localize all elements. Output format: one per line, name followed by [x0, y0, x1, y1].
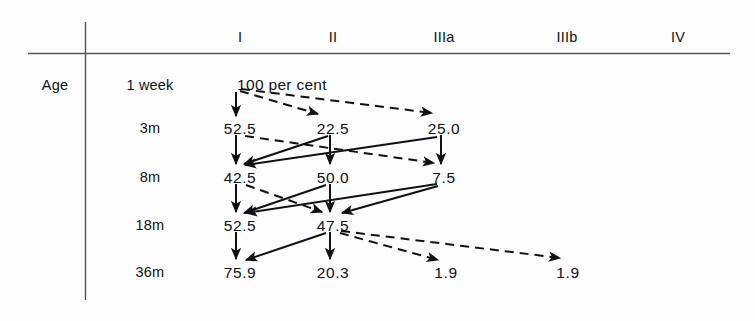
arrows-1week-to-3m — [236, 89, 432, 116]
arrow-dashed-I-to-IIIa — [245, 136, 434, 163]
cell-3m-I: 52.5 — [224, 121, 257, 137]
column-header-IV: IV — [671, 30, 685, 45]
cell-8m-II: 50.0 — [317, 170, 350, 186]
arrow-solid-II-to-I — [244, 185, 326, 213]
row-label-36m: 36m — [136, 265, 165, 280]
transition-arrow-layer — [0, 0, 755, 321]
arrow-solid-IIIa-to-II — [342, 186, 438, 213]
row-label-18m: 18m — [136, 218, 165, 233]
row-axis-title: Age — [42, 78, 68, 93]
cell-36m-IIIa: 1.9 — [434, 265, 457, 281]
arrow-solid-IIIa-to-I — [245, 137, 437, 165]
cell-3m-II: 22.5 — [317, 121, 350, 137]
cell-1week-I: 100 per cent — [237, 77, 327, 93]
arrows-18m-to-36m — [236, 231, 560, 260]
cell-36m-II: 20.3 — [317, 265, 350, 281]
arrows-8m-to-18m — [236, 184, 438, 213]
arrows-3m-to-8m — [236, 135, 441, 165]
row-label-3m: 3m — [140, 121, 161, 136]
cell-3m-IIIa: 25.0 — [428, 121, 461, 137]
arrow-solid-II-to-I — [246, 233, 326, 260]
cell-36m-I: 75.9 — [224, 265, 257, 281]
row-label-8m: 8m — [140, 170, 161, 185]
column-header-II: II — [329, 30, 337, 45]
arrow-dashed-II-to-IIIb — [341, 231, 560, 258]
column-header-I: I — [238, 30, 242, 45]
cell-18m-II: 47.5 — [317, 218, 350, 234]
cell-36m-IIIb: 1.9 — [556, 265, 579, 281]
figure-canvas: Age I II IIIa IIIb IV 1 week 3m 8m 18m 3… — [0, 0, 755, 321]
cell-18m-I: 52.5 — [224, 218, 257, 234]
column-header-IIIa: IIIa — [434, 30, 455, 45]
cell-8m-IIIa: 7.5 — [432, 170, 455, 186]
arrow-solid-IIIa-to-I — [246, 184, 437, 213]
row-label-1-week: 1 week — [126, 78, 173, 93]
column-header-IIIb: IIIb — [557, 30, 578, 45]
cell-8m-I: 42.5 — [224, 170, 257, 186]
